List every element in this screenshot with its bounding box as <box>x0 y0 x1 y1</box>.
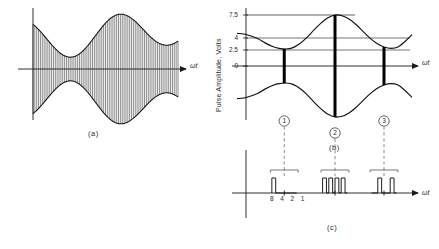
panel-c-x-axis-label: ωt <box>422 189 429 196</box>
panel-b-y-axis-label: Pulse Amplitude, Volts <box>215 38 222 112</box>
bit-weight-labels: 8 4 2 1 <box>270 195 307 202</box>
sample-label-2: 2 <box>329 127 341 139</box>
panel-a-plot <box>18 8 186 124</box>
pcm-figure: (a) (b) (c) ωt ωt ωt Pulse Amplitude, Vo… <box>0 0 439 249</box>
panel-b-upper-envelope <box>237 15 412 49</box>
caption-a: (a) <box>88 129 99 138</box>
group-brace-1 <box>270 170 298 173</box>
ytick-label-4: 4 <box>222 34 238 41</box>
caption-c: (c) <box>327 223 337 232</box>
group-brace-2 <box>321 170 349 173</box>
pulse-group-braces <box>270 170 398 173</box>
panel-a-x-axis-label: ωt <box>190 62 197 69</box>
sample-label-1: 1 <box>278 115 290 127</box>
pcm-pulse-groups <box>272 178 397 193</box>
panel-b-x-axis-label: ωt <box>422 59 429 66</box>
sample-label-3: 3 <box>378 115 390 127</box>
ytick-label-2p5: 2.5 <box>222 46 238 53</box>
panel-b-lower-envelope <box>237 83 412 117</box>
caption-b: (b) <box>329 143 340 152</box>
panel-c-plot <box>232 150 418 218</box>
group-brace-3 <box>370 170 398 173</box>
ytick-label-7p5: 7.5 <box>222 11 238 18</box>
panel-b-plot <box>232 8 418 176</box>
ytick-label-0: 0 <box>222 62 238 69</box>
